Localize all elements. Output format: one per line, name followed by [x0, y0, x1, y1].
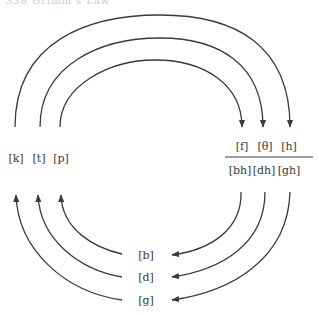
arrow-dh-to-d — [172, 192, 265, 277]
sound-shift-diagram — [0, 0, 319, 315]
label-gh: [gh] — [278, 164, 301, 177]
label-b: [b] — [138, 249, 154, 262]
label-d: [d] — [138, 271, 154, 284]
label-f: [f] — [236, 140, 249, 153]
label-g: [g] — [138, 294, 154, 307]
label-dh: [dh] — [253, 164, 276, 177]
label-bh: [bh] — [229, 164, 252, 177]
arrow-bh-to-b — [172, 192, 241, 255]
arrow-d-to-t — [38, 195, 122, 277]
label-theta: [θ] — [257, 140, 272, 153]
label-t: [t] — [32, 152, 45, 165]
arrow-gh-to-g — [172, 192, 290, 300]
arrow-t-to-theta — [40, 38, 263, 127]
arrow-p-to-f — [60, 60, 242, 127]
arrow-b-to-p — [61, 195, 122, 254]
arrow-k-to-h — [15, 15, 290, 127]
label-p: [p] — [53, 152, 69, 165]
label-k: [k] — [8, 152, 23, 165]
arrow-g-to-k — [16, 195, 122, 300]
label-h: [h] — [281, 140, 297, 153]
